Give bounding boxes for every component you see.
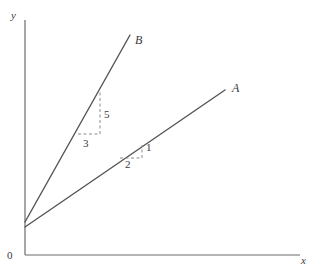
- line-a-run-label: 2: [125, 159, 131, 170]
- x-axis-label: x: [301, 255, 306, 266]
- line-a-rise-label: 1: [146, 142, 152, 153]
- y-axis-label: y: [11, 10, 16, 21]
- line-b: [25, 35, 130, 222]
- graph-figure: y x 0 A B 5 3 1 2: [0, 0, 316, 275]
- graph-canvas: [0, 0, 316, 275]
- line-b-rise-label: 5: [104, 109, 110, 120]
- line-b-run-label: 3: [83, 138, 89, 149]
- line-a-label: A: [232, 82, 239, 94]
- line-b-label: B: [135, 34, 142, 46]
- origin-label: 0: [7, 250, 13, 261]
